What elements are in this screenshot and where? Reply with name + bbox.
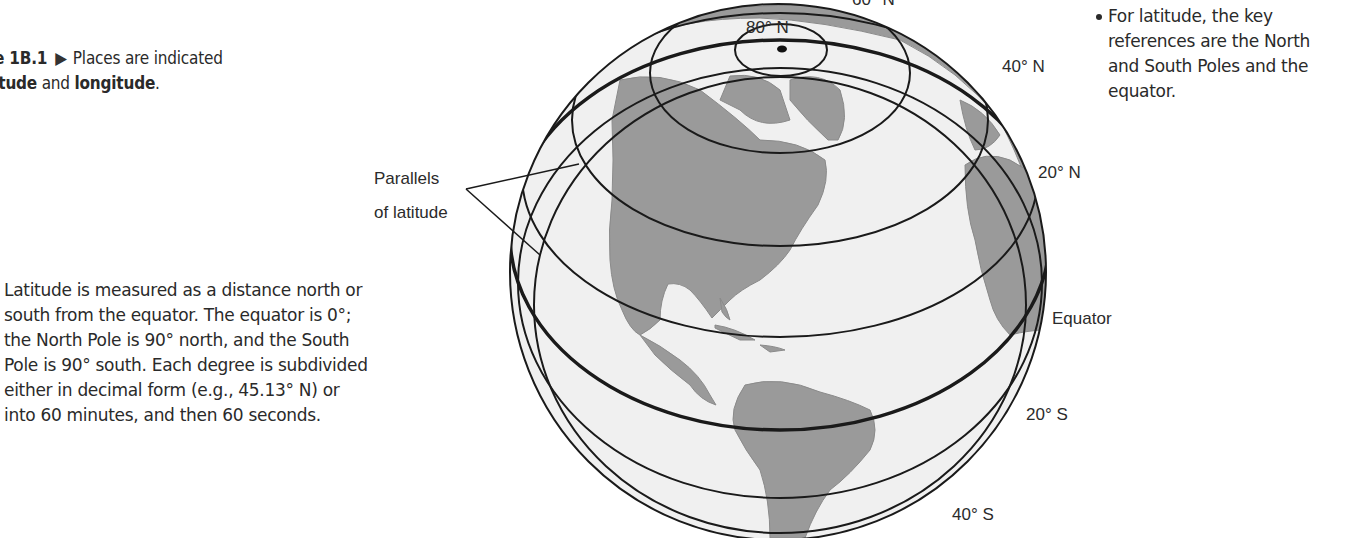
north-pole-dot <box>777 46 787 53</box>
label-20n: 20° N <box>1038 163 1081 183</box>
callout-label-line-2: of latitude <box>374 203 448 223</box>
label-80n: 80° N <box>746 18 789 38</box>
label-60n: 60° N <box>852 0 895 10</box>
label-20s: 20° S <box>1026 405 1068 425</box>
label-40s: 40° S <box>952 505 994 525</box>
callout-label-line-1: Parallels <box>374 169 439 189</box>
label-equator: Equator <box>1052 309 1112 329</box>
globe-diagram <box>0 0 1356 538</box>
label-40n: 40° N <box>1002 57 1045 77</box>
